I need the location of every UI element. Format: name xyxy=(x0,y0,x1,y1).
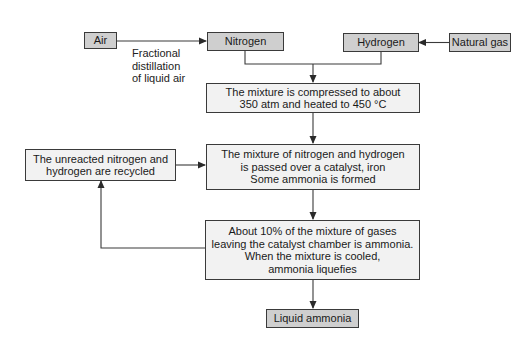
node-compress: The mixture is compressed to about 350 a… xyxy=(206,83,420,113)
node-nitrogen-label: Nitrogen xyxy=(225,35,267,48)
node-air-label: Air xyxy=(94,34,107,47)
node-natural-gas: Natural gas xyxy=(449,33,511,52)
node-hydrogen-label: Hydrogen xyxy=(357,36,405,49)
node-recycle: The unreacted nitrogen and hydrogen are … xyxy=(25,149,176,181)
arrow-cooling-to-recycle xyxy=(101,181,205,248)
node-cooling: About 10% of the mixture of gases leavin… xyxy=(205,220,420,280)
node-air: Air xyxy=(84,32,117,49)
node-catalyst: The mixture of nitrogen and hydrogen is … xyxy=(206,144,420,190)
node-nitrogen: Nitrogen xyxy=(207,32,284,51)
node-liquid-ammonia-label: Liquid ammonia xyxy=(274,312,352,325)
join-nitrogen-hydrogen xyxy=(245,50,381,64)
node-liquid-ammonia: Liquid ammonia xyxy=(266,309,359,328)
edge-label-fractional-distillation: Fractional distillation of liquid air xyxy=(132,47,185,85)
node-hydrogen: Hydrogen xyxy=(343,33,419,52)
node-natural-gas-label: Natural gas xyxy=(452,36,508,49)
